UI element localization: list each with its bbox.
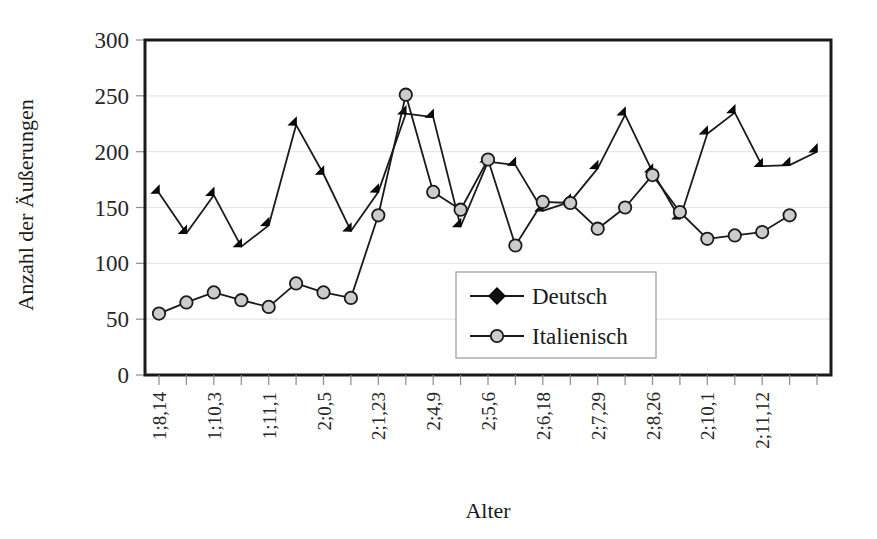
data-point-marker: [207, 188, 214, 195]
data-point-marker: [810, 145, 817, 152]
y-tick-label: 150: [95, 196, 130, 221]
data-point-marker: [646, 169, 658, 181]
data-point-marker: [290, 277, 302, 289]
data-point-marker: [263, 301, 275, 313]
data-point-marker: [618, 108, 625, 115]
y-tick-label: 50: [106, 307, 129, 332]
data-point-marker: [317, 286, 329, 298]
data-point-marker: [153, 307, 165, 319]
data-point-marker: [289, 118, 296, 125]
data-point-marker: [701, 233, 713, 245]
x-tick-label: 2;11,12: [752, 392, 773, 449]
line-chart: 050100150200250300 1;8,141;10,31;11,12;0…: [0, 0, 877, 539]
data-point-marker: [345, 292, 357, 304]
legend-marker-circle-icon: [491, 330, 503, 342]
data-point-marker: [152, 186, 159, 193]
x-tick-label: 2;10,1: [697, 392, 718, 440]
x-tick-label: 2;8,26: [643, 392, 664, 440]
chart-legend: DeutschItalienisch: [456, 272, 656, 358]
y-axis-title: Anzahl der Äußerungen: [13, 99, 38, 310]
data-point-marker: [454, 220, 461, 227]
data-point-marker: [592, 223, 604, 235]
data-point-marker: [235, 294, 247, 306]
data-point-marker: [508, 158, 515, 165]
data-point-marker: [537, 196, 549, 208]
data-point-marker: [180, 296, 192, 308]
y-tick-label: 100: [95, 251, 130, 276]
x-axis-title: Alter: [465, 498, 511, 523]
x-tick-label: 2;1,23: [368, 392, 389, 440]
series-deutsch: [152, 106, 817, 247]
y-tick-label: 200: [95, 140, 130, 165]
data-point-marker: [372, 209, 384, 221]
chart-container: 050100150200250300 1;8,141;10,31;11,12;0…: [0, 0, 877, 539]
data-point-marker: [729, 229, 741, 241]
legend-label: Deutsch: [532, 284, 608, 309]
data-point-marker: [454, 204, 466, 216]
data-point-marker: [674, 206, 686, 218]
data-point-marker: [728, 106, 735, 113]
data-point-marker: [783, 209, 795, 221]
data-point-marker: [783, 158, 790, 165]
data-point-marker: [564, 197, 576, 209]
x-tick-label: 2;0,5: [314, 392, 335, 431]
data-point-marker: [619, 201, 631, 213]
y-tick-label: 300: [95, 28, 130, 53]
data-point-marker: [400, 89, 412, 101]
y-tick-label: 0: [118, 363, 130, 388]
data-point-marker: [700, 127, 707, 134]
x-axis-tick-labels: 1;8,141;10,31;11,12;0,52;1,232;4,92;5,62…: [149, 392, 773, 449]
x-tick-label: 1;11,1: [259, 392, 280, 439]
data-point-marker: [509, 239, 521, 251]
x-tick-label: 2;6,18: [533, 392, 554, 440]
x-tick-label: 1;8,14: [149, 392, 170, 441]
data-point-marker: [208, 286, 220, 298]
series-line: [159, 113, 817, 247]
y-axis-tick-labels: 050100150200250300: [95, 28, 130, 388]
data-point-marker: [482, 153, 494, 165]
legend-label: Italienisch: [532, 324, 628, 349]
y-tick-label: 250: [95, 84, 130, 109]
data-point-marker: [262, 218, 269, 225]
x-tick-label: 1;10,3: [204, 392, 225, 440]
x-tick-label: 2;5,6: [478, 392, 499, 431]
x-tick-label: 2;7,29: [588, 392, 609, 440]
data-point-marker: [426, 110, 433, 117]
data-point-marker: [427, 186, 439, 198]
data-point-marker: [591, 161, 598, 168]
data-point-marker: [756, 226, 768, 238]
data-point-marker: [371, 185, 378, 192]
x-tick-label: 2;4,9: [423, 392, 444, 431]
